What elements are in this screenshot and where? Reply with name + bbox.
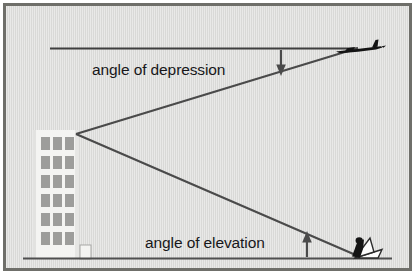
diagram-frame: angle of depression angle of elevation — [3, 3, 412, 271]
building-base-box — [80, 245, 91, 259]
diagram-canvas: angle of depression angle of elevation — [0, 0, 419, 278]
airplane-icon — [336, 40, 386, 54]
angle-of-depression-label: angle of depression — [92, 62, 225, 78]
diagram-scene — [6, 6, 409, 268]
observer-icon — [352, 237, 382, 258]
angle-of-elevation-label: angle of elevation — [145, 235, 265, 251]
building — [33, 130, 91, 259]
